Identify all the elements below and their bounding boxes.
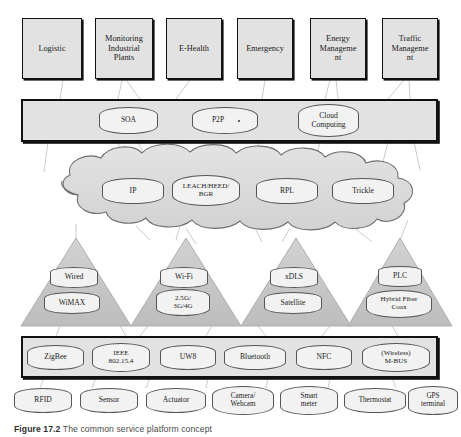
access-label-xdls: xDLS	[285, 273, 303, 281]
device-pill-actuator[interactable]: Actuator	[146, 388, 206, 413]
shortrange-pill-ieee-802-15-4[interactable]: IEEE 802.15.4	[92, 343, 150, 372]
access-label-cellular: 2.5G/ 3G/4G	[173, 295, 192, 310]
access-pill-wired[interactable]: Wired	[50, 267, 98, 288]
app-label-monitoring-industrial-plants: Monitoring Industrial Plants	[96, 19, 152, 78]
access-label-wimax: WiMAX	[59, 299, 86, 307]
cloud-pill-ip[interactable]: IP	[102, 178, 164, 204]
cloud-pill-rpl[interactable]: RPL	[256, 178, 318, 204]
shortrange-pill-wireless-mbus[interactable]: (Wireless) M-BUS	[362, 343, 430, 372]
middleware-pill-soa[interactable]: SOA	[99, 107, 158, 134]
connectors-shortrange-to-devices	[40, 378, 396, 388]
device-pill-sensor[interactable]: Sensor	[80, 388, 138, 413]
app-box-emergency[interactable]: Emergency	[237, 18, 293, 79]
app-box-logistic[interactable]: Logistic	[22, 18, 82, 79]
device-label-actuator: Actuator	[163, 396, 190, 404]
access-pill-hybrid-fiber-coax[interactable]: Hybrid Fiber Coax	[366, 290, 432, 318]
app-box-energy-management[interactable]: Energy Manageme nt	[310, 18, 366, 79]
middleware-label-cloud-computing: Cloud Computing	[311, 112, 345, 128]
shortrange-label-uwb: UW8	[180, 353, 196, 361]
middleware-pill-p2p[interactable]: P2P	[192, 107, 258, 134]
cloud-label-ip: IP	[130, 187, 137, 195]
access-label-wifi: Wi-Fi	[175, 273, 193, 281]
app-label-logistic: Logistic	[23, 19, 81, 78]
shortrange-pill-uwb[interactable]: UW8	[160, 345, 216, 370]
app-label-emergency: Emergency	[238, 19, 292, 78]
p2p-marker-dot	[238, 120, 240, 122]
access-pill-wifi[interactable]: Wi-Fi	[160, 267, 208, 288]
access-pill-xdls[interactable]: xDLS	[270, 267, 318, 288]
access-pill-satellite[interactable]: Satellite	[264, 292, 322, 314]
shortrange-pill-nfc[interactable]: NFC	[296, 345, 352, 370]
app-box-e-health[interactable]: E-Health	[166, 18, 222, 79]
shortrange-pill-bluetooth[interactable]: Bluetooth	[224, 345, 286, 370]
cloud-label-trickle: Trickle	[352, 187, 374, 195]
shortrange-label-wireless-mbus: (Wireless) M-BUS	[381, 350, 410, 365]
shortrange-label-bluetooth: Bluetooth	[240, 353, 270, 361]
device-label-sensor: Sensor	[99, 396, 120, 404]
cloud-label-rpl: RPL	[280, 187, 294, 195]
device-label-gps-terminal: GPS terminal	[421, 393, 445, 409]
cloud-pill-leach-heed-bgr[interactable]: LEACH/HEED/ BGR	[172, 175, 240, 206]
device-label-thermostat: Thermostat	[359, 397, 392, 405]
connectors-access-to-shortrange	[56, 326, 398, 336]
figure-caption-text: The common service platform concept	[63, 424, 212, 434]
app-box-monitoring-industrial-plants[interactable]: Monitoring Industrial Plants	[95, 18, 153, 79]
device-label-rfid: RFID	[34, 396, 51, 404]
device-label-smart-meter: Smart meter	[300, 393, 317, 409]
shortrange-pill-zigbee[interactable]: ZigBee	[27, 345, 84, 370]
access-label-satellite: Satellite	[281, 299, 306, 307]
iot-service-platform-diagram: Logistic Monitoring Industrial Plants E-…	[0, 0, 461, 437]
device-label-camera-webcam: Camera/ Webcam	[231, 393, 256, 409]
shortrange-label-ieee-802-15-4: IEEE 802.15.4	[109, 350, 134, 365]
access-label-plc: PLC	[393, 272, 407, 280]
access-pill-wimax[interactable]: WiMAX	[44, 292, 100, 314]
access-label-wired: Wired	[65, 273, 84, 281]
access-label-hybrid-fiber-coax: Hybrid Fiber Coax	[381, 296, 418, 311]
middleware-label-p2p: P2P	[212, 116, 224, 124]
app-label-energy-management: Energy Manageme nt	[311, 19, 365, 78]
device-pill-rfid[interactable]: RFID	[14, 388, 72, 413]
middleware-label-soa: SOA	[121, 116, 136, 124]
cloud-pill-trickle[interactable]: Trickle	[332, 178, 394, 204]
shortrange-label-nfc: NFC	[317, 353, 332, 361]
figure-caption-number: Figure 17.2	[14, 424, 60, 434]
access-pill-plc[interactable]: PLC	[378, 266, 422, 287]
shortrange-label-zigbee: ZigBee	[44, 353, 66, 361]
app-box-traffic-management[interactable]: Traffic Manageme nt	[382, 18, 438, 79]
figure-caption: Figure 17.2 The common service platform …	[14, 424, 212, 437]
connectors-app-to-middleware	[60, 80, 410, 99]
device-pill-camera-webcam[interactable]: Camera/ Webcam	[212, 386, 274, 415]
cloud-label-leach-heed-bgr: LEACH/HEED/ BGR	[183, 183, 230, 198]
device-pill-thermostat[interactable]: Thermostat	[344, 388, 406, 413]
access-pill-cellular[interactable]: 2.5G/ 3G/4G	[156, 289, 210, 316]
device-pill-smart-meter[interactable]: Smart meter	[280, 386, 338, 415]
device-pill-gps-terminal[interactable]: GPS terminal	[408, 386, 458, 415]
middleware-pill-cloud-computing[interactable]: Cloud Computing	[298, 104, 359, 137]
app-label-e-health: E-Health	[167, 19, 221, 78]
app-label-traffic-management: Traffic Manageme nt	[383, 19, 437, 78]
